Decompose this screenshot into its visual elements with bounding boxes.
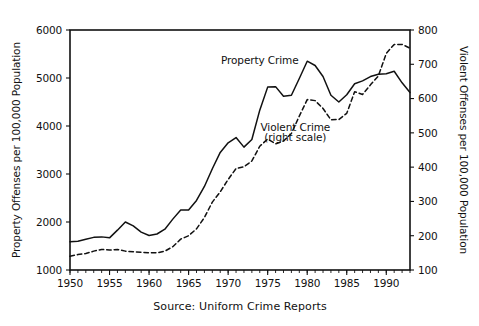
right-tick-label: 300 <box>418 195 437 207</box>
x-tick-label: 1950 <box>57 277 83 289</box>
x-tick-label: 1985 <box>334 277 360 289</box>
crime-rate-chart-figure: 100020003000400050006000 100200300400500… <box>0 0 479 326</box>
right-tick-label: 100 <box>418 264 437 276</box>
series-annotations: Property CrimeViolent Crime(right scale) <box>221 54 330 144</box>
annotation-label: Property Crime <box>221 54 299 66</box>
source-caption: Source: Uniform Crime Reports <box>153 300 327 313</box>
x-tick-label: 1975 <box>255 277 281 289</box>
right-tick-label: 500 <box>418 127 437 139</box>
left-tick-label: 6000 <box>36 24 62 36</box>
right-tick-label: 200 <box>418 230 437 242</box>
left-tick-label: 4000 <box>36 120 62 132</box>
x-axis-tick-labels: 195019551960196519701975198019851990 <box>57 277 399 289</box>
x-tick-label: 1965 <box>176 277 202 289</box>
x-tick-label: 1990 <box>373 277 399 289</box>
right-tick-label: 600 <box>418 92 437 104</box>
left-axis-title: Property Offenses per 100,000 Population <box>10 42 22 258</box>
x-tick-label: 1955 <box>97 277 123 289</box>
left-tick-label: 3000 <box>36 168 62 180</box>
chart-canvas: 100020003000400050006000 100200300400500… <box>0 0 479 326</box>
series-line-violent-crime <box>70 44 410 256</box>
series-line-property-crime <box>70 61 410 241</box>
left-tick-label: 1000 <box>36 264 62 276</box>
x-tick-label: 1980 <box>294 277 320 289</box>
right-axis-title: Violent Offenses per 100,000 Population <box>458 46 470 254</box>
x-tick-label: 1970 <box>215 277 241 289</box>
left-axis-tick-labels: 100020003000400050006000 <box>36 24 62 276</box>
plot-frame <box>70 30 410 270</box>
x-tick-label: 1960 <box>136 277 162 289</box>
right-tick-label: 700 <box>418 58 437 70</box>
data-series-group <box>70 44 410 256</box>
right-tick-label: 400 <box>418 161 437 173</box>
right-tick-label: 800 <box>418 24 437 36</box>
left-tick-label: 5000 <box>36 72 62 84</box>
right-axis-tick-labels: 100200300400500600700800 <box>418 24 437 276</box>
left-tick-label: 2000 <box>36 216 62 228</box>
plot-border <box>70 30 410 270</box>
annotation-label: (right scale) <box>264 131 326 143</box>
